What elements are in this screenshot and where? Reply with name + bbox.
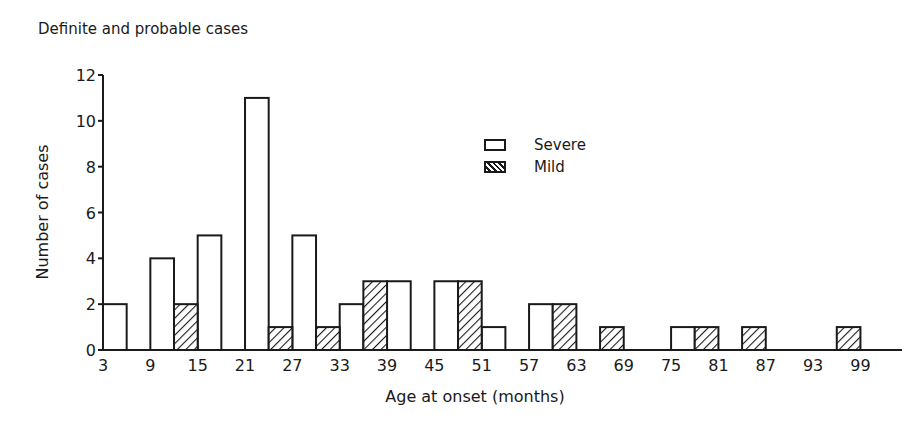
x-tick-label: 51 [472,356,492,375]
x-tick-label: 87 [756,356,776,375]
x-tick-label: 93 [803,356,823,375]
y-tick-label: 12 [76,66,96,85]
bar-severe [103,304,127,350]
y-tick-label: 6 [86,204,96,223]
x-tick-label: 45 [424,356,444,375]
bar-mild [742,327,766,350]
legend-item-severe: Severe [484,134,586,156]
y-axis-label: Number of cases [33,145,52,280]
bar-mild [269,327,293,350]
x-tick-label: 27 [282,356,302,375]
bar-mild [837,327,861,350]
x-tick-label: 75 [661,356,681,375]
mild-swatch-icon [484,161,506,173]
axes-group: 0246810123915212733394551576369758187939… [33,66,902,406]
legend-item-mild: Mild [484,156,586,178]
x-tick-label: 81 [708,356,728,375]
bar-mild [553,304,577,350]
x-tick-label: 15 [188,356,208,375]
x-tick-label: 9 [145,356,155,375]
bar-severe [387,281,411,350]
y-tick-label: 10 [76,112,96,131]
y-tick-label: 2 [86,295,96,314]
x-axis-label: Age at onset (months) [385,387,564,406]
severe-swatch-icon [484,139,506,151]
histogram-chart: 0246810123915212733394551576369758187939… [0,0,923,430]
x-tick-label: 33 [330,356,350,375]
x-tick-label: 21 [235,356,255,375]
y-tick-label: 0 [86,341,96,360]
bar-severe [245,98,269,350]
bar-severe [671,327,695,350]
bar-mild [600,327,624,350]
bar-severe [198,235,222,350]
x-tick-label: 63 [566,356,586,375]
bars-group [103,98,860,350]
x-tick-label: 69 [614,356,634,375]
bar-severe [434,281,458,350]
y-tick-label: 4 [86,249,96,268]
x-tick-label: 99 [850,356,870,375]
bar-severe [529,304,553,350]
bar-severe [482,327,506,350]
legend: Severe Mild [484,134,586,178]
legend-label-severe: Severe [534,136,586,154]
y-tick-label: 8 [86,158,96,177]
bar-mild [363,281,387,350]
bar-severe [340,304,364,350]
bar-mild [174,304,198,350]
bar-severe [150,258,174,350]
bar-severe [292,235,316,350]
x-tick-label: 57 [519,356,539,375]
x-tick-label: 3 [98,356,108,375]
bar-mild [316,327,340,350]
bar-mild [695,327,719,350]
bar-mild [458,281,482,350]
x-tick-label: 39 [377,356,397,375]
legend-label-mild: Mild [534,158,565,176]
